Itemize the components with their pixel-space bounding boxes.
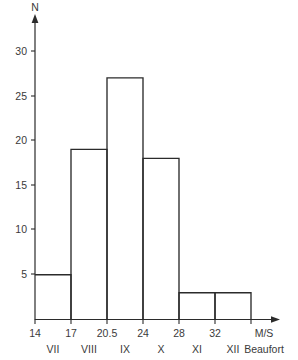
- x-tick-label-24: 24: [137, 327, 149, 339]
- beaufort-label-vii: VII: [47, 343, 60, 355]
- arrow-up-icon: [32, 14, 39, 23]
- histogram-chart: N 5 10 15 20 25 30: [0, 0, 298, 360]
- y-axis-group: N: [31, 1, 39, 320]
- chart-canvas: N 5 10 15 20 25 30: [0, 0, 298, 360]
- y-tick-label-5: 5: [21, 268, 27, 280]
- y-tick-label-20: 20: [15, 134, 27, 146]
- arrow-right-icon: [271, 316, 280, 323]
- x-axis-group: [35, 316, 280, 323]
- x-tick-marks: [35, 320, 251, 325]
- y-tick-labels: 5 10 15 20 25 30: [15, 45, 27, 280]
- x-tick-label-14: 14: [29, 327, 41, 339]
- x-tick-label-17: 17: [65, 327, 77, 339]
- beaufort-label-x: X: [157, 343, 164, 355]
- y-tick-label-15: 15: [15, 179, 27, 191]
- bar-ix: [107, 78, 143, 320]
- x-tick-labels: 14 17 20.5 24 28 32 M/S: [29, 327, 273, 339]
- bar-xi: [179, 293, 215, 320]
- histogram-bars: [35, 78, 251, 320]
- beaufort-labels: VII VIII IX X XI XII Beaufort: [47, 343, 284, 355]
- bar-xii: [215, 293, 251, 320]
- beaufort-label-viii: VIII: [81, 343, 97, 355]
- beaufort-label-xii: XII: [227, 343, 240, 355]
- x-tick-label-32: 32: [209, 327, 221, 339]
- y-tick-label-10: 10: [15, 223, 27, 235]
- y-axis-title: N: [31, 1, 39, 13]
- y-tick-label-25: 25: [15, 90, 27, 102]
- x-axis-scale-label: Beaufort: [244, 343, 284, 355]
- x-tick-label-20-5: 20.5: [97, 327, 118, 339]
- x-tick-label-28: 28: [173, 327, 185, 339]
- bar-x: [143, 158, 179, 319]
- bar-vii: [35, 275, 71, 320]
- y-tick-label-30: 30: [15, 45, 27, 57]
- beaufort-label-ix: IX: [120, 343, 130, 355]
- bar-viii: [71, 149, 107, 319]
- x-axis-unit-label: M/S: [255, 327, 274, 339]
- beaufort-label-xi: XI: [192, 343, 202, 355]
